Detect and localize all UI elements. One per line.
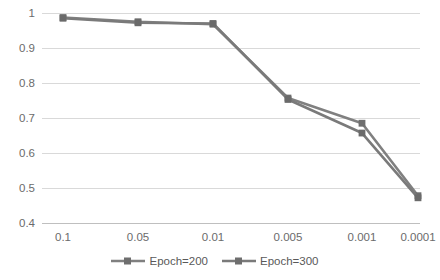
data-point-marker (285, 96, 292, 103)
legend-item-epoch-200[interactable]: Epoch=200 (111, 255, 208, 267)
chart-legend: Epoch=200 Epoch=300 (0, 255, 430, 267)
series-line (63, 18, 418, 198)
data-point-marker (415, 194, 422, 201)
series-epoch-300 (60, 15, 422, 201)
data-point-marker (359, 120, 366, 127)
legend-marker-icon (111, 255, 145, 267)
data-point-marker (359, 130, 366, 137)
legend-label-epoch-200: Epoch=200 (149, 255, 208, 267)
data-point-marker (60, 15, 67, 22)
series-line (63, 18, 418, 196)
data-point-marker (135, 19, 142, 26)
data-point-marker (210, 20, 217, 27)
legend-marker-icon (222, 255, 256, 267)
series-epoch-200 (60, 14, 422, 199)
legend-label-epoch-300: Epoch=300 (260, 255, 319, 267)
legend-item-epoch-300[interactable]: Epoch=300 (222, 255, 319, 267)
